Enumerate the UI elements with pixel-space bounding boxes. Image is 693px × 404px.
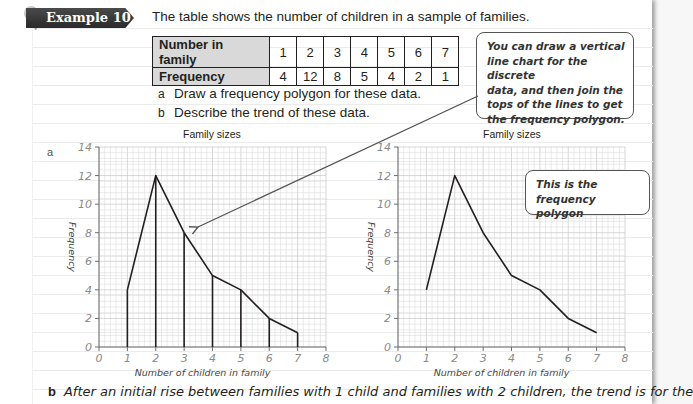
svg-text:8: 8 bbox=[323, 352, 330, 365]
svg-text:8: 8 bbox=[622, 352, 629, 365]
svg-text:4: 4 bbox=[384, 284, 391, 297]
svg-text:0: 0 bbox=[96, 352, 103, 365]
svg-text:6: 6 bbox=[266, 352, 273, 365]
svg-text:2: 2 bbox=[85, 312, 92, 325]
svg-text:Frequency: Frequency bbox=[67, 222, 78, 272]
svg-text:0: 0 bbox=[85, 341, 92, 354]
chart-left: 02468101214012345678Number of children i… bbox=[67, 141, 330, 378]
answer-b: bAfter an initial rise between families … bbox=[48, 384, 693, 399]
svg-text:8: 8 bbox=[85, 227, 92, 240]
svg-text:6: 6 bbox=[565, 352, 572, 365]
svg-text:2: 2 bbox=[152, 352, 159, 365]
svg-text:10: 10 bbox=[78, 198, 92, 211]
svg-text:3: 3 bbox=[181, 352, 188, 365]
textbook-page: Example 10 The table shows the number of… bbox=[0, 0, 652, 404]
svg-text:6: 6 bbox=[384, 255, 391, 268]
svg-text:14: 14 bbox=[78, 141, 92, 154]
svg-text:0: 0 bbox=[384, 341, 391, 354]
svg-text:7: 7 bbox=[294, 352, 301, 365]
svg-text:Number of children in family: Number of children in family bbox=[434, 367, 570, 378]
svg-text:10: 10 bbox=[377, 198, 391, 211]
svg-text:5: 5 bbox=[237, 352, 244, 365]
svg-text:1: 1 bbox=[423, 352, 430, 365]
answer-b-label: b bbox=[48, 384, 56, 399]
svg-text:Number of children in family: Number of children in family bbox=[135, 367, 271, 378]
svg-text:5: 5 bbox=[536, 352, 543, 365]
svg-text:12: 12 bbox=[78, 170, 92, 183]
callout-right: This is the frequency polygon bbox=[525, 170, 650, 215]
svg-text:1: 1 bbox=[124, 352, 131, 365]
svg-text:4: 4 bbox=[85, 284, 92, 297]
svg-text:0: 0 bbox=[395, 352, 402, 365]
svg-text:Frequency: Frequency bbox=[366, 222, 377, 272]
svg-text:8: 8 bbox=[384, 227, 391, 240]
svg-text:12: 12 bbox=[377, 170, 391, 183]
answer-b-text: After an initial rise between families w… bbox=[64, 384, 693, 399]
svg-text:4: 4 bbox=[209, 352, 216, 365]
svg-text:6: 6 bbox=[85, 255, 92, 268]
callout-line: polygon bbox=[536, 206, 649, 221]
callout-line: This is the frequency bbox=[536, 177, 649, 206]
svg-text:7: 7 bbox=[593, 352, 600, 365]
svg-text:2: 2 bbox=[451, 352, 458, 365]
svg-text:2: 2 bbox=[384, 312, 391, 325]
pointer-arrow bbox=[198, 96, 478, 227]
svg-text:3: 3 bbox=[480, 352, 487, 365]
svg-text:4: 4 bbox=[508, 352, 515, 365]
